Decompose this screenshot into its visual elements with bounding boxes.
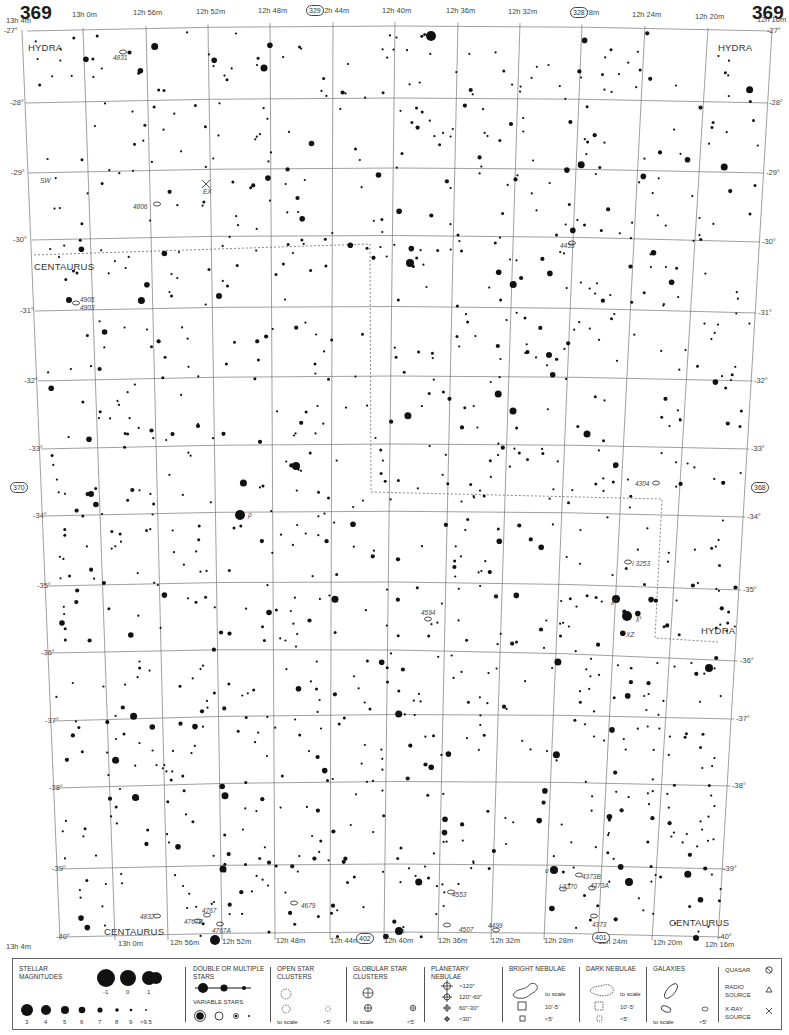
legend-divider: [270, 967, 271, 1022]
legend-bright-nebulae: BRIGHT NEBULAE to scale 10'-5' <5': [505, 959, 579, 1029]
object-label: χ²: [611, 597, 617, 604]
dec-label-right: -39°: [723, 864, 737, 873]
dec-label-right: -34°: [747, 512, 761, 521]
dec-label-left: -36°: [41, 648, 55, 657]
ra-label-top: 12h 56m: [133, 8, 162, 17]
dec-label-right: -36°: [740, 656, 754, 665]
radio-source-icon: [766, 987, 772, 992]
ra-label-top: 12h 24m: [632, 10, 661, 19]
object-label: 4832: [140, 913, 154, 920]
dec-label-right: -29°: [766, 168, 780, 177]
adjacent-chart-link[interactable]: 368: [751, 482, 769, 493]
ra-label-bottom: 12h 48m: [276, 936, 305, 945]
dec-label-right: -32°: [754, 376, 768, 385]
dec-label-right: -37°: [736, 714, 750, 723]
object-label: 4767: [202, 907, 216, 914]
dec-label-right: -33°: [751, 444, 765, 453]
object-label: 4831: [113, 54, 127, 61]
object-label: 4507: [459, 926, 473, 933]
ra-label-top: 12h 16m: [757, 15, 786, 24]
ra-label-bottom: 13h 0m: [118, 939, 143, 948]
object-label: I 3370: [559, 883, 577, 890]
ra-label-bottom: 12h 16m: [705, 940, 734, 949]
dec-label-left: -28°: [10, 98, 24, 107]
dec-label-left: -27°: [4, 26, 18, 35]
adjacent-chart-link[interactable]: 401: [592, 932, 610, 943]
object-label: 4455: [560, 242, 574, 249]
legend-divider: [718, 967, 719, 1022]
object-label: 4373: [592, 921, 606, 928]
dec-label-left: -31°: [20, 306, 34, 315]
chart-legend: STELLAR MAGNITUDES -1 0 1 2 3 4 5 6 7 8 …: [12, 958, 782, 1030]
dec-label-right: -31°: [758, 308, 772, 317]
ra-label-bottom: 12h 44m: [330, 936, 359, 945]
dec-label-right: -40°: [718, 932, 732, 941]
legend-galaxies: GALAXIES to scale <5': [649, 959, 717, 1029]
adjacent-chart-link[interactable]: 329: [306, 5, 324, 16]
object-label: ρ: [248, 511, 252, 518]
legend-divider: [424, 967, 425, 1022]
object-label: 4373B: [582, 873, 601, 880]
star-chart: [0, 0, 789, 950]
ra-label-top: 13h 0m: [72, 10, 97, 19]
legend-divider: [502, 967, 503, 1022]
legend-dark-nebulae: DARK NEBULAE to scale 10'-5' <5': [582, 959, 656, 1029]
ra-label-top: 12h 48m: [258, 6, 287, 15]
object-label: SW: [40, 177, 50, 184]
dec-label-left: -30°: [13, 235, 27, 244]
constellation-boundary: [34, 244, 718, 642]
object-label: 4767A: [212, 927, 231, 934]
stars: [35, 31, 759, 945]
dec-label-left: -39°: [52, 864, 66, 873]
dec-label-left: -38°: [49, 783, 63, 792]
object-label: I 3253: [632, 560, 650, 567]
dec-label-right: -35°: [743, 585, 757, 594]
ra-label-bottom: 12h 32m: [491, 936, 520, 945]
quasar-radio-xray-icon: [721, 959, 781, 1029]
quasar-icon: [766, 967, 772, 973]
legend-divider: [579, 967, 580, 1022]
ra-label-bottom: 12h 40m: [384, 936, 413, 945]
ra-label-top: 12h 20m: [695, 12, 724, 21]
xray-source-icon: [766, 1008, 772, 1014]
bright-nebula-icon: [505, 959, 579, 1029]
dec-label-left: -40°: [56, 932, 70, 941]
dec-label-left: -35°: [37, 581, 51, 590]
object-label: XZ: [626, 631, 634, 638]
dec-label-right: -28°: [769, 98, 783, 107]
legend-quasar-radio-xray: QUASAR RADIO SOURCE X-RAY SOURCE: [721, 959, 781, 1029]
ra-label-bottom: 12h 28m: [544, 936, 573, 945]
constellation-label: HYDRA: [718, 42, 752, 53]
object-label: 4806: [133, 203, 147, 210]
ra-label-bottom: 13h 4m: [6, 942, 31, 951]
dec-label-right: -27°: [767, 26, 781, 35]
ra-label-bottom: 12h 52m: [222, 937, 251, 946]
ra-label-top: 12h 52m: [196, 7, 225, 16]
deep-sky-objects: [73, 50, 660, 932]
object-label: 4903: [80, 304, 94, 311]
dec-label-left: -33°: [29, 444, 43, 453]
constellation-label: HYDRA: [701, 625, 735, 636]
legend-stellar-magnitudes: STELLAR MAGNITUDES -1 0 1 2 3 4 5 6 7 8 …: [13, 959, 163, 1029]
ra-label-top: 12h 36m: [446, 6, 475, 15]
adjacent-chart-link[interactable]: 402: [356, 933, 374, 944]
ra-label-top: 12h 40m: [382, 6, 411, 15]
dec-label-left: -29°: [11, 168, 25, 177]
legend-open-clusters: OPEN STAR CLUSTERS to scale <5': [273, 959, 341, 1029]
dec-label-right: -38°: [732, 781, 746, 790]
constellation-label: CENTAURUS: [104, 926, 164, 937]
dark-nebula-icon: [582, 959, 656, 1029]
dec-label-left: -37°: [45, 716, 59, 725]
legend-planetary-nebulae: PLANETARY NEBULAE >120" 120"-60" 60"-30"…: [427, 959, 503, 1029]
adjacent-chart-link[interactable]: 370: [10, 482, 28, 493]
object-label: 4767B: [184, 918, 203, 925]
object-label: 4594: [421, 609, 435, 616]
legend-divider: [346, 967, 347, 1022]
ra-label-top: 13h 4m: [6, 16, 31, 25]
object-label: 4905: [80, 296, 94, 303]
dec-label-left: -34°: [33, 511, 47, 520]
coordinate-grid: [22, 22, 772, 940]
object-label: 4499: [488, 922, 502, 929]
ra-label-top: 12h 32m: [508, 7, 537, 16]
adjacent-chart-link[interactable]: 328: [570, 7, 588, 18]
